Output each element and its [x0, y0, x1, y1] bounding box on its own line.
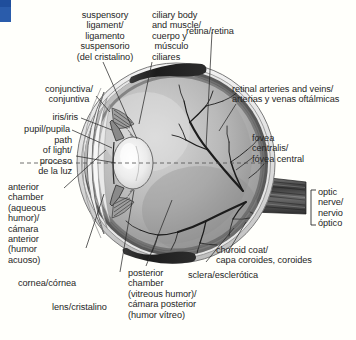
optic-nerve-bracket — [311, 190, 316, 225]
label-fovea-centralis: fovea centralis/ fóvea central — [252, 133, 328, 164]
label-choroid-coat: choroid coat/ capa coroides, coroides — [216, 245, 354, 266]
label-suspensory-ligament: suspensory ligament/ ligamento suspensor… — [62, 10, 148, 62]
label-optic-nerve: optic nerve/ nervio óptico — [318, 187, 356, 229]
label-anterior-chamber: anterior chamber (aqueous humor)/ cámara… — [8, 182, 68, 265]
label-lens: lens/cristalino — [52, 302, 138, 312]
label-cornea: cornea/córnea — [18, 278, 104, 288]
label-posterior-chamber: posterior chamber (vitreous humor)/ cáma… — [128, 268, 226, 320]
label-retina: retina/retina — [186, 26, 266, 36]
label-path-of-light: path of light/ proceso de la luz — [8, 135, 72, 177]
label-conjunctiva: conjunctiva/ conjuntiva — [32, 84, 106, 105]
label-iris: iris/iris — [8, 112, 78, 122]
page-corner-mark — [0, 0, 11, 22]
label-pupil: pupil/pupila — [2, 124, 70, 134]
label-retinal-vessels: retinal arteries and veins/ arterias y v… — [232, 84, 356, 105]
